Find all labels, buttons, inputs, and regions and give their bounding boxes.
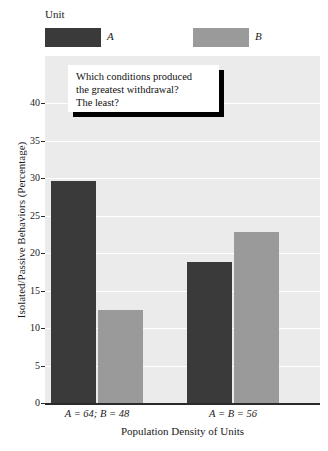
callout-line: Which conditions produced <box>76 70 212 83</box>
bar-chart-figure: Unit A B 0510152025303540 Isolated/Passi… <box>0 0 328 451</box>
y-tick-mark <box>41 253 45 254</box>
y-tick-mark <box>41 141 45 142</box>
callout-annotation: Which conditions producedthe greatest wi… <box>68 65 219 112</box>
y-tick-mark <box>41 366 45 367</box>
bar-b-group-1 <box>98 310 143 403</box>
bar-a-group-2 <box>187 262 232 403</box>
bar-a-group-1 <box>51 181 96 403</box>
x-tick-label: A = B = 56 <box>163 408 303 419</box>
legend-swatch-a <box>45 28 101 47</box>
bar-b-group-2 <box>234 232 279 403</box>
y-tick-mark <box>41 103 45 104</box>
y-tick-mark <box>41 291 45 292</box>
legend-label-b: B <box>255 30 262 42</box>
callout-line: the greatest withdrawal? <box>76 83 212 96</box>
gridline <box>45 141 320 142</box>
legend-title: Unit <box>45 8 65 20</box>
y-tick-mark <box>41 216 45 217</box>
y-tick-mark <box>41 178 45 179</box>
y-axis-title: Isolated/Passive Behaviors (Percentage) <box>15 70 27 390</box>
chart-legend: Unit A B <box>45 8 320 52</box>
x-axis-title: Population Density of Units <box>45 425 320 437</box>
callout-line: The least? <box>76 96 212 109</box>
y-tick-label: 0 <box>14 398 40 408</box>
x-tick-label: A = 64; B = 48 <box>27 408 167 419</box>
callout-box: Which conditions producedthe greatest wi… <box>68 65 219 112</box>
legend-swatch-b <box>193 28 249 47</box>
legend-label-a: A <box>107 30 114 42</box>
gridline <box>45 178 320 179</box>
y-tick-mark <box>41 328 45 329</box>
x-axis-line <box>45 403 320 405</box>
